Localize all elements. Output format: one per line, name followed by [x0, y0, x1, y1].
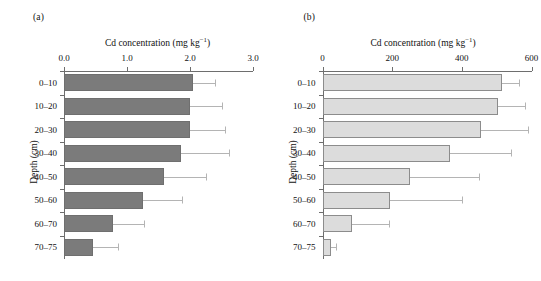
y-tick [60, 236, 64, 237]
y-tick [319, 165, 323, 166]
error-bar-cap [336, 244, 337, 251]
y-tick [60, 212, 64, 213]
error-bar [113, 224, 145, 225]
x-tick [323, 67, 324, 71]
error-bar-cap [525, 103, 526, 110]
panel-a-axis-title: Cd concentration (mg kg−1) [50, 36, 265, 48]
y-tick [319, 236, 323, 237]
panel-b-axis-title: Cd concentration (mg kg−1) [311, 36, 536, 48]
error-bar [193, 83, 215, 84]
y-tick [319, 142, 323, 143]
bar [64, 121, 190, 138]
superscript-minus-one: −1 [200, 36, 207, 43]
error-bar-cap [519, 79, 520, 86]
x-tick [127, 67, 128, 71]
panel-a-x-axis [64, 71, 253, 72]
x-tick-label: 400 [455, 53, 469, 63]
error-bar [410, 177, 480, 178]
error-bar [390, 200, 462, 201]
error-bar-cap [222, 103, 223, 110]
depth-label: 40–50 [293, 172, 316, 182]
y-tick [319, 118, 323, 119]
panel-b-letter: (b) [304, 12, 316, 22]
error-bar [498, 106, 524, 107]
y-tick [319, 212, 323, 213]
y-tick [319, 71, 323, 72]
x-tick [392, 67, 393, 71]
y-tick [319, 95, 323, 96]
x-tick-label: 3.0 [247, 53, 258, 63]
bar [323, 215, 353, 232]
figure-container: (a) Cd concentration (mg kg−1) Depth (cm… [0, 0, 541, 281]
depth-label: 30–40 [35, 148, 58, 158]
y-tick [60, 95, 64, 96]
error-bar-cap [479, 173, 480, 180]
y-tick [60, 165, 64, 166]
depth-label: 70–75 [35, 242, 58, 252]
error-bar [93, 247, 118, 248]
x-tick-label: 0 [320, 53, 325, 63]
y-tick [60, 142, 64, 143]
x-tick-label: 600 [525, 53, 539, 63]
y-tick [60, 71, 64, 72]
superscript-minus-one: −1 [465, 36, 472, 43]
depth-label: 60–70 [293, 219, 316, 229]
error-bar-cap [389, 220, 390, 227]
bar [64, 145, 181, 162]
error-bar [143, 200, 182, 201]
depth-label: 60–70 [35, 219, 58, 229]
bar [323, 192, 390, 209]
error-bar-cap [225, 126, 226, 133]
panel-a-plot-area: Depth (cm) 0.01.02.03.00–1010–2020–3030–… [64, 71, 253, 259]
error-bar [352, 224, 388, 225]
x-tick-label: 2.0 [184, 53, 195, 63]
x-tick-label: 200 [385, 53, 399, 63]
error-bar-cap [144, 220, 145, 227]
bar [323, 98, 499, 115]
error-bar-cap [511, 150, 512, 157]
panel-a-letter: (a) [33, 12, 44, 22]
x-tick [190, 67, 191, 71]
error-bar [450, 153, 511, 154]
error-bar [481, 130, 528, 131]
depth-label: 50–60 [35, 195, 58, 205]
panel-b: (b) Cd concentration (mg kg−1) Depth (cm… [271, 0, 541, 281]
error-bar-cap [215, 79, 216, 86]
x-tick [532, 67, 533, 71]
x-tick [253, 67, 254, 71]
error-bar-cap [229, 150, 230, 157]
depth-label: 20–30 [293, 125, 316, 135]
error-bar [190, 106, 222, 107]
error-bar [181, 153, 230, 154]
depth-label: 0–10 [298, 78, 316, 88]
bar [323, 168, 410, 185]
x-tick-label: 0.0 [58, 53, 69, 63]
panel-b-x-axis [323, 71, 532, 72]
y-tick [319, 189, 323, 190]
bar [323, 239, 331, 256]
error-bar [502, 83, 519, 84]
bar [323, 74, 502, 91]
depth-label: 10–20 [35, 101, 58, 111]
error-bar-cap [462, 197, 463, 204]
panel-b-plot-area: Depth (cm) 02004006000–1010–2020–3030–40… [323, 71, 532, 259]
error-bar [164, 177, 206, 178]
depth-label: 30–40 [293, 148, 316, 158]
bar [64, 98, 190, 115]
bar [64, 192, 143, 209]
error-bar [190, 130, 225, 131]
bar [323, 145, 450, 162]
error-bar-cap [206, 173, 207, 180]
error-bar-cap [528, 126, 529, 133]
bar [64, 215, 113, 232]
depth-label: 20–30 [35, 125, 58, 135]
x-tick [64, 67, 65, 71]
y-tick [60, 118, 64, 119]
bar [64, 74, 193, 91]
error-bar-cap [118, 244, 119, 251]
depth-label: 50–60 [293, 195, 316, 205]
depth-label: 40–50 [35, 172, 58, 182]
depth-label: 10–20 [293, 101, 316, 111]
bar [323, 121, 481, 138]
error-bar-cap [182, 197, 183, 204]
